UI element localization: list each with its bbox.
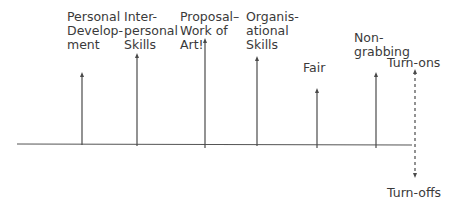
force-label-organisational-skills: Organis- ational Skills [246, 10, 299, 52]
force-label-fair: Fair [303, 61, 325, 75]
baseline [17, 144, 412, 145]
arrow-up-icon [135, 53, 139, 58]
force-label-interpersonal-skills: Inter- personal Skills [124, 10, 178, 52]
force-arrow-organisational-skills [255, 56, 259, 146]
arrow-down-icon [413, 173, 417, 178]
force-label-personal-development: Personal Develop- ment [67, 10, 123, 52]
arrow-up-icon [374, 72, 378, 77]
force-arrow-proposal-work-of-art [203, 38, 207, 148]
force-arrow-non-grabbing [374, 72, 378, 148]
force-label-proposal-work-of-art: Proposal– Work of Art! [180, 10, 239, 52]
force-arrow-fair [315, 88, 319, 148]
turn-on-off-axis [413, 69, 417, 178]
turn-offs-label: Turn-offs [387, 186, 441, 200]
force-arrow-personal-development [80, 72, 84, 145]
force-field-diagram: Personal Develop- mentInter- personal Sk… [0, 0, 450, 207]
arrow-up-icon [315, 88, 319, 93]
arrow-up-icon [80, 72, 84, 77]
turn-ons-label: Turn-ons [387, 56, 440, 70]
arrow-up-icon [255, 56, 259, 61]
force-arrow-interpersonal-skills [135, 53, 139, 146]
